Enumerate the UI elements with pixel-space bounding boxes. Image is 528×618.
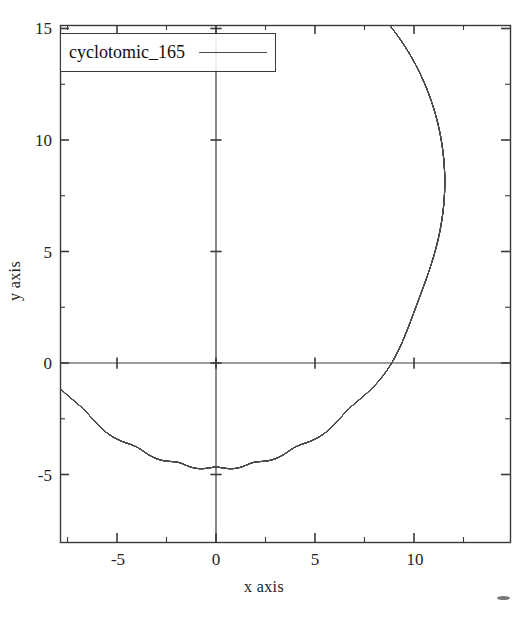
axis-ticks [60, 25, 510, 542]
legend-box[interactable]: cyclotomic_165 [60, 33, 276, 72]
legend-line-sample [199, 52, 267, 53]
legend-entry-cyclotomic-165[interactable]: cyclotomic_165 [61, 34, 275, 71]
y-tick-label-15: 15 [14, 20, 52, 37]
zero-axis-lines [60, 25, 510, 542]
cyclotomic-plot-figure: -5 0 5 10 -5 0 5 10 15 x axis y axis cyc… [0, 0, 528, 618]
y-tick-label-10: 10 [14, 132, 52, 149]
scan-artifact-speck [497, 596, 510, 600]
y-tick-label--5: -5 [14, 467, 52, 484]
x-axis-title: x axis [0, 578, 528, 596]
plot-canvas [0, 0, 528, 618]
legend-label: cyclotomic_165 [69, 42, 185, 63]
x-tick-label-10: 10 [407, 551, 424, 568]
x-tick-label--5: -5 [111, 551, 125, 568]
y-tick-label-0: 0 [14, 355, 52, 372]
plot-frame [61, 26, 511, 543]
x-tick-label-5: 5 [311, 551, 320, 568]
y-axis-title: y axis [6, 249, 24, 313]
x-tick-label-0: 0 [212, 551, 221, 568]
